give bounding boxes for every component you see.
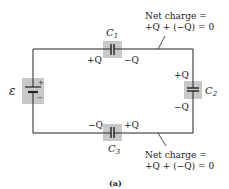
annotation-top: Net charge = +Q + (−Q) = 0 (145, 11, 214, 49)
annotation-bottom-line1: Net charge = (145, 150, 207, 160)
annotation-top-line2: +Q + (−Q) = 0 (145, 22, 214, 32)
annotation-top-line1: Net charge = (145, 11, 207, 21)
annotation-bottom: Net charge = +Q + (−Q) = 0 (145, 133, 214, 171)
c1-left-charge: +Q (87, 55, 102, 65)
capacitor-c1: C1 +Q −Q (87, 27, 139, 65)
battery-plus-sign: + (38, 79, 44, 87)
c2-bottom-charge: −Q (174, 102, 189, 112)
figure-caption: (a) (109, 178, 122, 188)
circuit-wires (33, 49, 193, 133)
c3-right-charge: +Q (124, 120, 139, 130)
battery: + − ε (9, 78, 44, 104)
emf-label: ε (9, 84, 15, 98)
circuit-diagram: + − ε C1 +Q −Q C2 +Q −Q C3 −Q +Q (0, 0, 229, 189)
c2-top-charge: +Q (174, 70, 189, 80)
annotation-bottom-line2: +Q + (−Q) = 0 (145, 161, 214, 171)
c3-label: C3 (108, 143, 121, 156)
c1-right-charge: −Q (124, 55, 139, 65)
annotation-top-pointer (158, 36, 165, 49)
c2-label: C2 (205, 85, 218, 98)
annotation-bottom-pointer (158, 133, 166, 146)
capacitor-c3: C3 −Q +Q (88, 120, 139, 156)
c1-label: C1 (106, 27, 118, 40)
capacitor-c2: C2 +Q −Q (174, 70, 218, 112)
c3-left-charge: −Q (88, 120, 103, 130)
battery-minus-sign: − (37, 94, 43, 102)
